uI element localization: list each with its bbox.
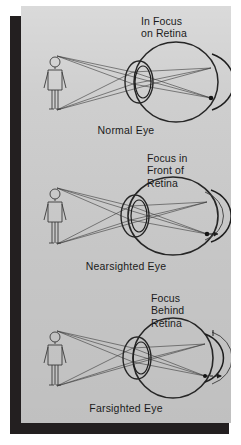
retina-arc [205,334,223,382]
panel-normal-eye: In Focus on Retina Normal Eye [21,6,231,146]
focus-projection-arrowhead [217,373,222,378]
caption-normal-eye: Normal Eye [21,124,231,136]
caption-farsighted-eye: Farsighted Eye [21,402,231,414]
object-person [44,332,66,385]
focus-label-normal: In Focus on Retina [141,15,187,40]
focal-point-marker [203,374,207,378]
object-person [44,189,66,243]
retina-arc [212,54,231,110]
panel-nearsighted-eye: Focus in Front of Retina Nearsighted Eye [21,146,231,286]
focus-label-nearsighted: Focus in Front of Retina [147,152,187,189]
focal-point-marker [209,96,214,101]
lens [131,200,147,232]
frame-shadow-bottom [10,423,229,434]
focus-label-farsighted: Focus Behind Retina [151,292,184,329]
eye-focus-diagram: In Focus on Retina Normal Eye [0,0,241,445]
frame-shadow-left [10,16,21,434]
caption-nearsighted-eye: Nearsighted Eye [21,260,231,272]
diagram-plate: In Focus on Retina Normal Eye [21,6,231,423]
eyeball-outline [134,42,218,122]
object-person [44,57,66,109]
panel-farsighted-eye: Focus Behind Retina Farsighted Eye [21,286,231,423]
